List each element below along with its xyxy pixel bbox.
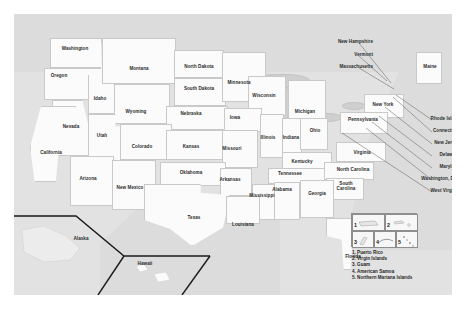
callout-label-washington-d-c-: Washington, D.C.	[421, 176, 452, 181]
territory-number-1: 1	[354, 222, 357, 228]
state-shape-montana	[102, 38, 176, 84]
state-label-wisconsin: Wisconsin	[252, 93, 275, 98]
state-label-south-carolina: South Carolina	[335, 181, 357, 192]
alaska-hawaii-inset	[14, 200, 214, 295]
callout-label-rhode-island: Rhode Island	[431, 116, 452, 121]
territory-number-4: 4	[376, 239, 379, 245]
state-label-idaho: Idaho	[94, 96, 107, 101]
callout-label-maryland: Maryland	[439, 164, 452, 169]
state-label-california: California	[40, 150, 62, 155]
state-label-oregon: Oregon	[51, 73, 68, 78]
state-label-mississippi: Mississippi	[249, 193, 274, 198]
state-shape-south-dakota	[174, 78, 226, 106]
callout-label-delaware: Delaware	[439, 152, 452, 157]
state-label-iowa: Iowa	[230, 115, 240, 120]
state-label-michigan: Michigan	[295, 109, 315, 114]
state-label-wyoming: Wyoming	[126, 109, 147, 114]
state-label-alaska: Alaska	[73, 236, 88, 241]
state-label-virginia: Virginia	[353, 150, 370, 155]
callout-label-connecticut: Connecticut	[433, 128, 452, 133]
state-shape-georgia	[300, 180, 334, 218]
state-label-arkansas: Arkansas	[219, 177, 240, 182]
callout-label-massachusetts: Massachusetts	[339, 64, 373, 69]
state-label-tennessee: Tennessee	[278, 171, 302, 176]
state-label-new-mexico: New Mexico	[117, 185, 144, 190]
state-label-hawaii: Hawaii	[138, 261, 153, 266]
state-label-nebraska: Nebraska	[180, 111, 201, 116]
map-panel: WashingtonOregonIdahoMontanaNorth Dakota…	[14, 14, 452, 295]
state-label-new-york: New York	[373, 102, 394, 107]
state-label-texas: Texas	[188, 215, 201, 220]
state-label-washington: Washington	[62, 46, 89, 51]
state-label-minnesota: Minnesota	[227, 80, 250, 85]
state-label-kansas: Kansas	[183, 144, 200, 149]
state-label-missouri: Missouri	[222, 146, 241, 151]
callout-label-new-jersey: New Jersey	[434, 140, 452, 145]
territories-legend-list: 1. Puerto Rico2. Virgin Islands3. Guam4.…	[352, 250, 412, 281]
state-label-north-carolina: North Carolina	[337, 167, 370, 172]
state-label-ohio: Ohio	[310, 128, 321, 133]
state-label-indiana: Indiana	[283, 135, 299, 140]
state-label-kentucky: Kentucky	[291, 159, 312, 164]
state-shape-colorado	[120, 124, 172, 160]
lake-ontario	[342, 102, 366, 110]
state-label-utah: Utah	[97, 133, 107, 138]
state-label-oklahoma: Oklahoma	[180, 170, 203, 175]
state-label-louisiana: Louisiana	[232, 222, 254, 227]
territories-thumbnail-grid: 1 2 3 4 5	[351, 213, 417, 247]
state-label-south-dakota: South Dakota	[184, 86, 214, 91]
territories-inset: 1 2 3 4 5 1. Puerto Rico2. Virgin Island…	[351, 213, 452, 288]
callout-label-west-virginia: West Virginia	[430, 188, 452, 193]
state-label-montana: Montana	[129, 66, 148, 71]
state-shape-nebraska	[166, 106, 228, 130]
state-shape-washington	[50, 38, 102, 68]
territory-number-5: 5	[398, 239, 401, 245]
territory-number-3: 3	[354, 239, 357, 245]
state-label-illinois: Illinois	[261, 135, 276, 140]
callout-label-new-hampshire: New Hampshire	[338, 39, 373, 44]
state-label-maine: Maine	[423, 64, 436, 69]
state-label-georgia: Georgia	[308, 191, 326, 196]
territory-number-2: 2	[387, 222, 390, 228]
state-label-colorado: Colorado	[132, 144, 153, 149]
state-label-north-dakota: North Dakota	[184, 64, 213, 69]
state-label-arizona: Arizona	[79, 176, 96, 181]
state-label-nevada: Nevada	[63, 124, 80, 129]
state-label-pennsylvania: Pennsylvania	[348, 117, 378, 122]
state-shape-pennsylvania	[340, 112, 388, 134]
state-shape-louisiana	[226, 196, 260, 224]
state-label-alabama: Alabama	[272, 187, 292, 192]
us-map-figure: WashingtonOregonIdahoMontanaNorth Dakota…	[0, 0, 466, 312]
state-shape-wyoming	[114, 84, 170, 124]
callout-label-vermont: Vermont	[354, 52, 373, 57]
state-shape-ohio	[300, 118, 328, 150]
territory-legend-item: 5. Northern Mariana Islands	[352, 275, 412, 281]
